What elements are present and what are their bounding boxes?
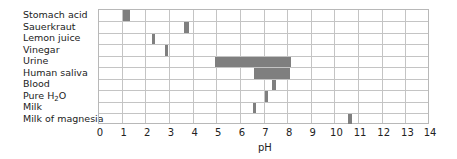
x-axis-title: pH xyxy=(258,142,272,153)
x-tick-label: 5 xyxy=(215,127,221,138)
category-label-stomach-acid: Stomach acid xyxy=(23,9,88,20)
plot-area xyxy=(98,9,429,124)
category-label-vinegar: Vinegar xyxy=(23,44,60,55)
gridline-h xyxy=(99,33,428,34)
category-label-lemon-juice: Lemon juice xyxy=(23,32,80,43)
bar-milk-of-magnesia xyxy=(348,114,352,124)
x-tick-label: 3 xyxy=(168,127,174,138)
x-tick-label: 9 xyxy=(310,127,316,138)
gridline-h xyxy=(99,79,428,80)
gridline-h xyxy=(99,102,428,103)
gridline-h xyxy=(99,90,428,91)
bar-human-saliva xyxy=(254,68,290,79)
x-tick-label: 14 xyxy=(424,127,437,138)
category-label-sauerkraut: Sauerkraut xyxy=(23,21,76,32)
x-tick-label: 1 xyxy=(120,127,126,138)
category-label-blood: Blood xyxy=(23,78,50,89)
label-text: O xyxy=(59,90,66,101)
bar-sauerkraut xyxy=(184,22,189,33)
x-tick-label: 2 xyxy=(144,127,150,138)
label-text: Pure H xyxy=(23,90,54,101)
x-tick-label: 4 xyxy=(191,127,197,138)
category-label-human-saliva: Human saliva xyxy=(23,67,88,78)
bar-lemon-juice xyxy=(152,34,155,45)
x-tick-label: 11 xyxy=(354,127,367,138)
gridline-h xyxy=(99,21,428,22)
category-label-milk: Milk xyxy=(23,101,42,112)
x-tick-label: 0 xyxy=(97,127,103,138)
category-label-milk-of-magnesia: Milk of magnesia xyxy=(23,113,104,124)
gridline-h xyxy=(99,44,428,45)
x-tick-label: 8 xyxy=(286,127,292,138)
bar-vinegar xyxy=(165,45,168,56)
x-tick-label: 7 xyxy=(262,127,268,138)
x-tick-label: 13 xyxy=(401,127,414,138)
x-tick-label: 6 xyxy=(239,127,245,138)
x-tick-label: 10 xyxy=(330,127,343,138)
gridline-h xyxy=(99,113,428,114)
bar-milk xyxy=(253,103,256,114)
category-label-urine: Urine xyxy=(23,55,48,66)
bar-pure-water xyxy=(265,91,268,102)
bar-blood xyxy=(272,80,276,91)
bar-urine xyxy=(215,57,291,68)
x-tick-label: 12 xyxy=(377,127,390,138)
bar-stomach-acid xyxy=(123,10,130,21)
